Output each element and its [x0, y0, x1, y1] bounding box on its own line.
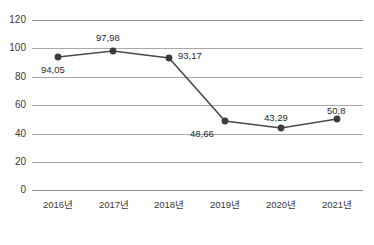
data-point-marker — [334, 116, 341, 123]
y-axis-tick-0: 0 — [0, 185, 26, 195]
x-axis-tick-2021: 2021년 — [307, 199, 367, 210]
x-axis-tick-2020: 2020년 — [251, 199, 311, 210]
y-axis-tick-80: 80 — [0, 72, 26, 82]
data-label-2016: 94,05 — [41, 65, 65, 75]
x-axis-tick-2019: 2019년 — [195, 199, 255, 210]
data-label-2021: 50,8 — [327, 106, 346, 116]
gridline-80 — [32, 77, 363, 78]
data-point-marker — [55, 54, 62, 61]
line-chart: 120 100 80 60 40 20 0 94,05 97,98 93,17 … — [0, 0, 374, 245]
gridline-20 — [32, 162, 363, 163]
y-axis-tick-60: 60 — [0, 100, 26, 110]
series-line — [58, 51, 337, 128]
gridline-100 — [32, 48, 363, 49]
x-axis-tick-2017: 2017년 — [84, 199, 144, 210]
data-label-2017: 97,98 — [96, 33, 120, 43]
y-axis-tick-100: 100 — [0, 43, 26, 53]
data-label-2019: 48,66 — [190, 129, 214, 139]
gridline-60 — [32, 105, 363, 106]
gridline-120 — [32, 20, 363, 21]
data-point-marker — [222, 118, 229, 125]
y-axis-tick-120: 120 — [0, 15, 26, 25]
data-point-marker — [278, 125, 285, 132]
data-label-2020: 43,29 — [264, 113, 288, 123]
y-axis-tick-20: 20 — [0, 157, 26, 167]
data-point-marker — [166, 55, 173, 62]
axis-baseline — [32, 190, 363, 191]
x-axis-tick-2018: 2018년 — [139, 199, 199, 210]
y-axis-tick-40: 40 — [0, 129, 26, 139]
data-label-2018: 93,17 — [178, 51, 202, 61]
x-axis-tick-2016: 2016년 — [28, 199, 88, 210]
